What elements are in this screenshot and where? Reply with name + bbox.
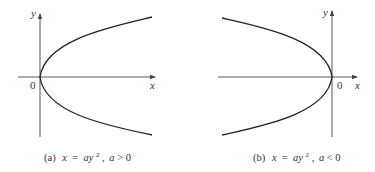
equation-lhs-a: x [61, 152, 67, 163]
equation-rhs-a: ay [83, 152, 93, 163]
condition-op-b: < [327, 152, 336, 163]
y-axis-label-a: y [30, 7, 36, 19]
equation-exponent-a: 2 [96, 151, 100, 159]
panel-a: y x 0 (a) x = ay 2 , a > 0 [18, 7, 155, 164]
x-axis-label-b: x [354, 79, 360, 91]
equation-rhs-b: ay [293, 152, 303, 163]
condition-val-b: 0 [335, 152, 340, 163]
condition-var-a: a [109, 152, 114, 163]
origin-label-b: 0 [337, 79, 343, 91]
condition-val-a: 0 [126, 152, 131, 163]
condition-op-a: > [117, 152, 126, 163]
origin-label-a: 0 [30, 79, 36, 91]
caption-b: (b) x = ay 2 , a < 0 [253, 148, 341, 164]
equation-eq-b: = [279, 152, 290, 163]
parabola-diagram: y x 0 (a) x = ay 2 , a > 0 y x 0 (b) x =… [0, 0, 375, 172]
x-axis-label-a: x [149, 79, 155, 91]
parabola-curve-a [40, 17, 152, 135]
y-axis-label-b: y [322, 6, 328, 18]
equation-eq-a: = [70, 152, 81, 163]
equation-lhs-b: x [271, 152, 277, 163]
condition-var-b: a [319, 152, 324, 163]
caption-prefix-b: (b) [253, 152, 266, 164]
caption-a: (a) x = ay 2 , a > 0 [44, 148, 131, 164]
panel-b: y x 0 (b) x = ay 2 , a < 0 [218, 6, 360, 164]
caption-prefix-a: (a) [44, 152, 56, 164]
parabola-curve-b [222, 18, 332, 135]
equation-exponent-b: 2 [306, 151, 310, 159]
